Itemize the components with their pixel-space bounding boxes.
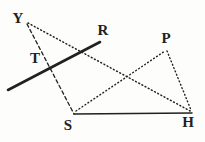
point-label-Y: Y <box>13 10 24 26</box>
point-label-S: S <box>64 117 72 133</box>
segment-S-H <box>74 113 192 114</box>
geometry-figure-canvas: YTRPSH <box>0 0 205 142</box>
point-label-T: T <box>30 50 40 66</box>
point-label-P: P <box>161 30 170 46</box>
segment-Y-S-through-T <box>27 24 74 114</box>
segment-S-P <box>76 51 165 111</box>
geometry-figure: YTRPSH <box>0 0 205 142</box>
line-through-T-ending-at-R <box>8 42 100 90</box>
point-label-R: R <box>98 22 109 38</box>
point-label-H: H <box>182 114 194 130</box>
